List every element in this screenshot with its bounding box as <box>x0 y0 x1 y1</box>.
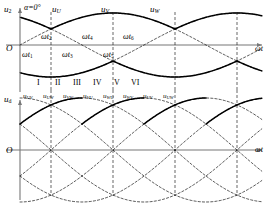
alpha-annotation: α=0° <box>24 4 41 12</box>
commutation-label-wt4: ωt4 <box>82 33 93 41</box>
commutation-label-wt6: ωt6 <box>123 33 134 41</box>
line-voltage-label-7: uUV <box>143 93 153 101</box>
interval-numeral-2: II <box>55 79 60 87</box>
interval-numeral-5: V <box>114 79 120 87</box>
interval-numeral-3: III <box>73 79 81 87</box>
phase-label-u: uU <box>52 5 61 15</box>
line-voltage-label-4: uVU <box>83 93 93 101</box>
line-voltage-label-6: uWV <box>123 93 133 101</box>
omega-t-label-upper: ωt <box>255 45 263 53</box>
commutation-label-wt5: ωt5 <box>103 51 114 59</box>
line-voltage-label-8: uUW <box>163 93 174 101</box>
upper-y-axis-label: u2 <box>4 5 11 15</box>
line-voltage-label-5: uWU <box>103 93 114 101</box>
origin-label-lower: O <box>6 146 13 155</box>
figure-container: u2 α=0° uU uV uW O ωt ωt2 ωt4 ωt6 ωt1 ωt… <box>0 0 275 208</box>
line-voltage-label-2: uUW <box>43 93 54 101</box>
line-voltage-label-3: uVW <box>63 93 73 101</box>
interval-numeral-1: I <box>37 79 40 87</box>
interval-numeral-4: IV <box>93 79 101 87</box>
lower-y-axis-label: ud <box>4 95 11 105</box>
line-voltage-label-1: uUV <box>23 93 33 101</box>
omega-t-label-lower: ωt <box>255 146 263 154</box>
phase-label-w: uW <box>150 5 159 15</box>
interval-numeral-6: VI <box>131 79 139 87</box>
commutation-label-wt2: ωt2 <box>41 33 52 41</box>
commutation-label-wt1: ωt1 <box>22 51 33 59</box>
commutation-label-wt3: ωt3 <box>62 51 73 59</box>
phase-label-v: uV <box>101 5 109 15</box>
origin-label-upper: O <box>6 44 13 53</box>
